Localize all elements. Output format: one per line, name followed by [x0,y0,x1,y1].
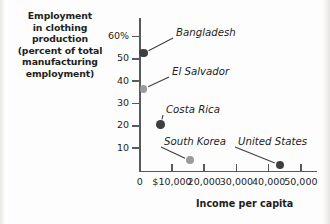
data-point-united-states [276,161,285,170]
plot-area: 60%5040302010 $10,00020,00030,00040,0005… [0,0,330,224]
x-axis-title: Income per capita [196,198,293,209]
y-tick-50 [132,58,139,60]
y-tick-40 [132,80,139,82]
leader-line-bangladesh [149,38,173,51]
y-tick-label-50: 50 [99,53,129,63]
y-tick-10 [132,147,139,149]
y-tick-label-60: 60% [99,31,129,41]
x-tick-30000 [236,164,238,171]
y-axis-line [139,18,141,172]
leader-line-united-states [235,147,275,163]
x-tick-label-50000: 50,000 [271,177,330,187]
x-axis-line [139,171,317,173]
figure-container: Employment in clothing production (perce… [0,0,330,224]
data-label-south-korea: South Korea [164,136,226,147]
data-label-bangladesh: Bangladesh [176,27,236,38]
x-tick-label-0: 0 [110,177,170,187]
data-label-united-states: United States [238,136,307,147]
y-tick-label-10: 10 [99,143,129,153]
x-tick-50000 [300,164,302,171]
x-tick-10000 [171,164,173,171]
y-tick-20 [132,125,139,127]
data-label-el-salvador: El Salvador [172,66,229,77]
y-tick-60 [132,36,139,38]
y-tick-label-40: 40 [99,76,129,86]
label-leader-lines [0,0,330,224]
data-label-costa-rica: Costa Rica [166,104,220,115]
data-point-costa-rica [156,120,165,129]
leader-line-south-korea [161,147,185,158]
y-tick-label-20: 20 [99,120,129,130]
data-point-south-korea [186,156,194,164]
x-tick-40000 [268,164,270,171]
y-tick-label-30: 30 [99,98,129,108]
data-point-el-salvador [140,85,148,93]
y-tick-30 [132,103,139,105]
x-tick-20000 [203,164,205,171]
data-point-bangladesh [139,49,148,58]
leader-line-costa-rica [162,115,163,119]
leader-line-el-salvador [148,77,169,87]
